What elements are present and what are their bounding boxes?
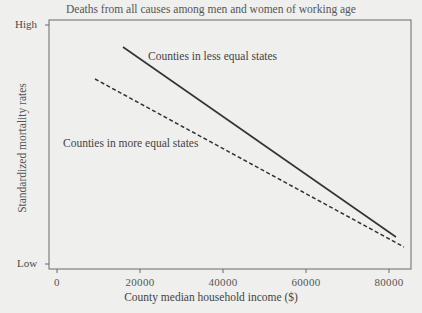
- series-more-equal-line: [95, 79, 404, 247]
- x-axis-title: County median household income ($): [0, 291, 422, 303]
- x-tick-label-0: 0: [54, 276, 60, 288]
- clipped-caption: [0, 308, 422, 313]
- plot-area: [0, 0, 422, 313]
- x-tick-label-80000: 80000: [375, 276, 404, 288]
- y-axis-title: Standardized mortality rates: [16, 83, 28, 213]
- x-tick-label-40000: 40000: [209, 276, 238, 288]
- y-label-high: High: [15, 18, 37, 30]
- y-label-low: Low: [17, 257, 37, 269]
- series-label-less-equal: Counties in less equal states: [148, 50, 277, 62]
- series-label-more-equal: Counties in more equal states: [63, 137, 198, 149]
- x-tick-label-20000: 20000: [126, 276, 155, 288]
- x-tick-label-60000: 60000: [292, 276, 321, 288]
